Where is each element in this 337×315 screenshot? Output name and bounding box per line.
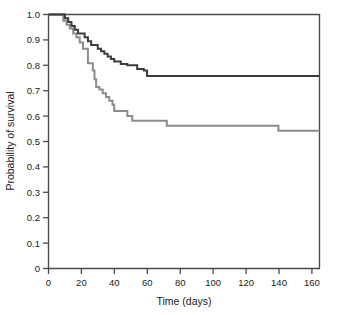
survival-curve-lower bbox=[49, 15, 320, 131]
y-tick-label: 0.8 bbox=[27, 60, 40, 71]
survival-plot-svg: 1.0 0.9 0.8 0.7 0.6 0.5 0.4 0.3 0.2 0.1 … bbox=[0, 0, 337, 315]
y-tick-label: 0.1 bbox=[27, 238, 40, 249]
series-layer bbox=[49, 15, 320, 131]
x-tick-label: 80 bbox=[175, 277, 186, 288]
x-tick-labels: 0 20 40 60 80 100 120 140 160 bbox=[46, 277, 320, 288]
x-tick-label: 140 bbox=[271, 277, 287, 288]
y-tick-label: 0.2 bbox=[27, 212, 40, 223]
y-tick-label: 0 bbox=[35, 263, 40, 274]
x-tick-label: 60 bbox=[142, 277, 153, 288]
y-tick-label: 0.6 bbox=[27, 111, 40, 122]
y-tick-label: 0.7 bbox=[27, 85, 40, 96]
x-tick-label: 100 bbox=[205, 277, 221, 288]
y-tick-label: 0.5 bbox=[27, 136, 40, 147]
y-tick-label: 0.9 bbox=[27, 34, 40, 45]
x-tick-label: 0 bbox=[46, 277, 51, 288]
y-tick-label: 1.0 bbox=[27, 9, 40, 20]
x-axis-title: Time (days) bbox=[156, 295, 211, 307]
y-tick-label: 0.4 bbox=[27, 161, 40, 172]
kaplan-meier-figure: 1.0 0.9 0.8 0.7 0.6 0.5 0.4 0.3 0.2 0.1 … bbox=[0, 0, 337, 315]
y-tick-labels: 1.0 0.9 0.8 0.7 0.6 0.5 0.4 0.3 0.2 0.1 … bbox=[27, 9, 40, 274]
x-tick-label: 160 bbox=[304, 277, 320, 288]
x-tick-label: 20 bbox=[76, 277, 87, 288]
y-tick-label: 0.3 bbox=[27, 187, 40, 198]
survival-curve-upper bbox=[49, 15, 320, 76]
x-tick-label: 120 bbox=[238, 277, 254, 288]
y-tick-marks bbox=[43, 15, 48, 269]
x-tick-label: 40 bbox=[109, 277, 120, 288]
y-axis-title: Probability of survival bbox=[4, 91, 16, 190]
